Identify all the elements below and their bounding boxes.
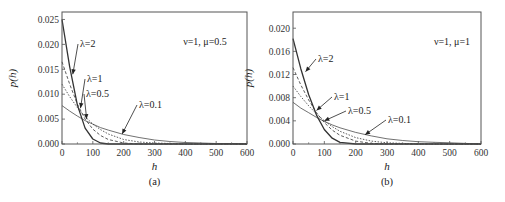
x-axis-title: h [384, 160, 390, 172]
y-tick-label: 0.025 [38, 15, 60, 25]
curve-annotation: λ=0.1 [388, 114, 411, 125]
y-tick-label: 0.000 [38, 139, 60, 149]
y-tick-label: 0.012 [269, 70, 291, 80]
curve-annotation: λ=0.5 [348, 105, 371, 116]
panel-a: 01002003004005006000.0000.0050.0100.0150… [6, 12, 254, 188]
y-axis-title: p(h) [242, 69, 255, 89]
arrow-icon [71, 69, 75, 74]
parameter-text: ν=1, μ=0.5 [183, 36, 227, 47]
x-axis-title: h [152, 160, 158, 172]
panel-label: (a) [149, 176, 161, 188]
curve-annotation: λ=1 [334, 91, 350, 102]
arrow-icon [79, 103, 83, 108]
x-tick-label: 300 [147, 148, 162, 158]
y-tick-label: 0.008 [269, 93, 291, 103]
curve-1 [293, 68, 481, 144]
chart-figure: 01002003004005006000.0000.0050.0100.0150… [0, 0, 505, 202]
x-tick-label: 400 [411, 148, 426, 158]
y-tick-label: 0.005 [38, 114, 60, 124]
y-axis-title: p(h) [6, 69, 19, 89]
curve-0_1 [62, 106, 247, 144]
y-tick-label: 0.016 [269, 47, 291, 57]
x-tick-label: 100 [317, 148, 332, 158]
x-tick-label: 200 [349, 148, 364, 158]
panel-label: (b) [381, 176, 394, 188]
parameter-text: ν=1, μ=1 [434, 36, 470, 47]
y-tick-label: 0.000 [269, 139, 291, 149]
curve-annotation: λ=0.5 [86, 88, 109, 99]
x-tick-label: 600 [240, 148, 255, 158]
curve-annotation: λ=1 [87, 73, 103, 84]
x-tick-label: 500 [443, 148, 458, 158]
y-tick-label: 0.010 [38, 89, 60, 99]
y-tick-label: 0.020 [38, 40, 60, 50]
curve-annotation: λ=0.1 [139, 99, 162, 110]
curve-0_5 [293, 86, 481, 144]
x-tick-label: 600 [474, 148, 489, 158]
x-tick-label: 0 [291, 148, 296, 158]
arrow-icon [365, 130, 370, 135]
x-tick-label: 100 [86, 148, 101, 158]
y-tick-label: 0.004 [269, 116, 291, 126]
x-tick-label: 200 [117, 148, 132, 158]
panel-b: 01002003004005006000.0000.0040.0080.0120… [242, 12, 488, 188]
x-tick-label: 300 [380, 148, 395, 158]
curve-annotation: λ=2 [80, 38, 96, 49]
y-tick-label: 0.015 [38, 65, 60, 75]
curve-annotation: λ=2 [318, 53, 334, 64]
x-tick-label: 0 [60, 148, 65, 158]
y-tick-label: 0.020 [269, 24, 291, 34]
x-tick-label: 500 [209, 148, 224, 158]
x-tick-label: 400 [178, 148, 193, 158]
